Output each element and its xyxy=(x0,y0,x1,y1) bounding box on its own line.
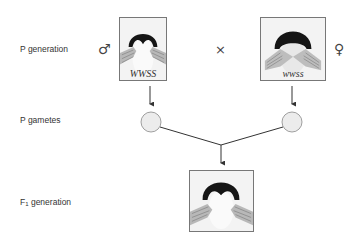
female-gamete-circle xyxy=(282,112,302,132)
male-gamete-line xyxy=(160,127,221,145)
widows-peak-face-icon xyxy=(190,171,253,231)
cross-connector-lines xyxy=(0,0,358,241)
female-gamete-line xyxy=(221,127,283,145)
male-gamete-circle xyxy=(141,112,161,132)
f1-offspring-portrait xyxy=(189,170,254,232)
